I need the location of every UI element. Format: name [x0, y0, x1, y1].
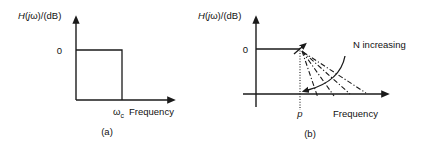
panel-a-ideal-response-curve [76, 50, 122, 100]
panel-b: H(jω)/(dB) 0 p Frequency N increasing (b… [198, 10, 406, 139]
panel-b-rolloff-n0 [303, 52, 366, 93]
figure-svg: H(jω)/(dB) 0 ωc Frequency (a) [0, 0, 429, 143]
panel-b-annotation-n-increasing: N increasing [353, 39, 406, 50]
panel-a-caption: (a) [101, 126, 113, 137]
panel-a-y-tick-zero: 0 [57, 45, 62, 56]
figure-root: H(jω)/(dB) 0 ωc Frequency (a) [0, 0, 429, 143]
panel-a-x-axis-label: Frequency [129, 106, 174, 117]
panel-b-x-axis-label: Frequency [333, 108, 378, 119]
panel-b-corner-arrow [294, 47, 302, 54]
panel-b-caption: (b) [304, 128, 316, 139]
panel-a: H(jω)/(dB) 0 ωc Frequency (a) [18, 10, 174, 137]
panel-b-rolloff-n2 [302, 51, 334, 96]
panel-a-y-axis-label: H(jω)/(dB) [18, 10, 61, 21]
panel-b-x-tick-p: p [296, 108, 302, 119]
panel-b-y-axis-label: H(jω)/(dB) [198, 10, 241, 21]
panel-b-y-tick-zero: 0 [243, 44, 248, 55]
panel-a-x-tick-omega-c: ωc [113, 106, 124, 119]
